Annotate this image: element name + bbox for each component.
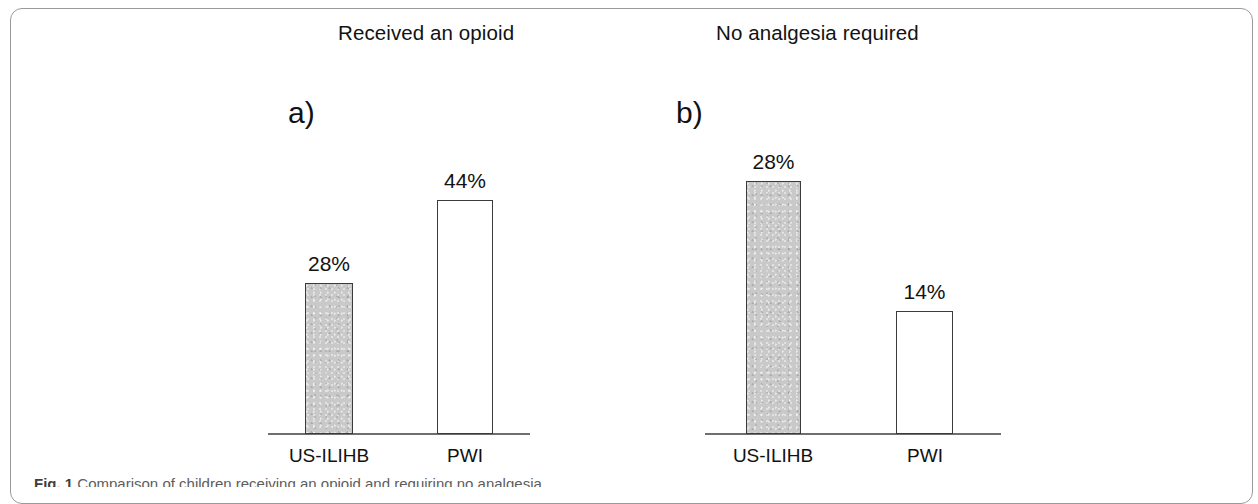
figure-caption: Fig. 1 Comparison of children receiving …: [34, 474, 1224, 487]
panel-a-plot: 28% 44% US-ILIHB PWI: [0, 0, 640, 487]
figure-caption-text: Comparison of children receiving an opio…: [77, 475, 541, 487]
panel-a-tick-label-pwi: PWI: [412, 444, 518, 467]
figure-caption-label: Fig. 1: [34, 475, 73, 487]
panel-a-bar-pwi: [437, 200, 493, 434]
panel-b-bar-pwi: [896, 311, 953, 434]
panel-b-plot: 28% 14% US-ILIHB PWI: [640, 0, 1258, 487]
panel-b-tick-label-us-ilihb: US-ILIHB: [706, 444, 840, 467]
panel-b-bar-us-ilihb: [746, 181, 801, 434]
panel-b-value-label-us-ilihb: 28%: [746, 150, 801, 174]
panel-a-bar-us-ilihb: [305, 283, 353, 434]
panel-a-tick-label-us-ilihb: US-ILIHB: [268, 444, 390, 467]
panel-b-value-label-pwi: 14%: [896, 280, 953, 304]
panel-b-tick-label-pwi: PWI: [872, 444, 978, 467]
panel-a-value-label-pwi: 44%: [437, 169, 493, 193]
panel-a-value-label-us-ilihb: 28%: [305, 252, 353, 276]
